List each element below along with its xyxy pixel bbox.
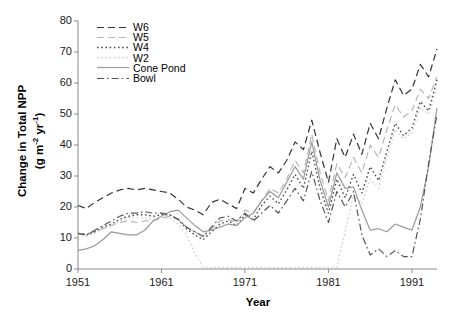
legend-swatch-icon — [96, 33, 130, 42]
legend-swatch-icon — [96, 53, 130, 62]
x-axis-tick-label: 1971 — [220, 277, 270, 288]
x-axis-tick-label: 1951 — [53, 277, 103, 288]
legend-item-bowl[interactable]: Bowl — [96, 73, 186, 83]
y-axis-tick-label: 80 — [28, 15, 72, 26]
chart-legend: W6W5W4W2Cone PondBowl — [96, 22, 186, 83]
y-axis-title: Change in Total NPP (g m-2 yr-1) — [16, 41, 46, 241]
legend-swatch-icon — [96, 23, 130, 32]
y-axis-title-units: (g m-2 yr-1) — [33, 113, 45, 169]
x-axis-title: Year — [78, 296, 438, 308]
y-axis-tick-label: 0 — [28, 263, 72, 274]
legend-swatch-icon — [96, 43, 130, 52]
series-line-cone-pond — [78, 108, 437, 251]
y-axis-title-main: Change in Total NPP — [16, 85, 28, 197]
series-line-w4 — [78, 80, 437, 240]
legend-swatch-icon — [96, 63, 130, 72]
x-axis-tick-label: 1961 — [136, 277, 186, 288]
x-axis-tick-label: 1981 — [303, 277, 353, 288]
series-line-w2 — [78, 89, 437, 267]
legend-label: Bowl — [133, 73, 156, 83]
x-axis-tick-label: 1991 — [387, 277, 437, 288]
legend-swatch-icon — [96, 74, 130, 83]
npp-line-chart-figure: 01020304050607080 19511961197119811991 C… — [0, 0, 449, 317]
